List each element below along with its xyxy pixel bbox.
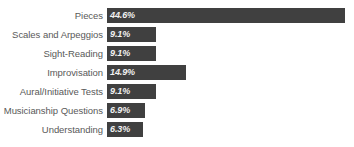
category-label: Musicianship Questions [0, 103, 103, 118]
category-label: Understanding [0, 122, 103, 137]
bar-value-label: 14.9% [107, 65, 135, 80]
bar[interactable]: 9.1% [107, 46, 156, 61]
category-label: Sight-Reading [0, 46, 103, 61]
bar-value-label: 44.6% [107, 8, 135, 23]
bar-value-label: 6.9% [107, 103, 130, 118]
chart-row: Understanding 6.3% [0, 122, 354, 137]
bar-track: 9.1% [107, 46, 354, 61]
bar-track: 44.6% [107, 8, 354, 23]
chart-plot-area: Pieces 44.6% Scales and Arpeggios 9.1% S… [0, 0, 354, 147]
bar-track: 9.1% [107, 27, 354, 42]
chart-row: Improvisation 14.9% [0, 65, 354, 80]
bar[interactable]: 9.1% [107, 27, 156, 42]
bar-track: 9.1% [107, 84, 354, 99]
bar[interactable]: 6.9% [107, 103, 145, 118]
chart-row: Pieces 44.6% [0, 8, 354, 23]
bar-value-label: 6.3% [107, 122, 130, 137]
bar[interactable]: 14.9% [107, 65, 186, 80]
category-label: Scales and Arpeggios [0, 27, 103, 42]
chart-row: Scales and Arpeggios 9.1% [0, 27, 354, 42]
bar[interactable]: 6.3% [107, 122, 143, 137]
bar-track: 14.9% [107, 65, 354, 80]
bar-value-label: 9.1% [107, 27, 130, 42]
category-label: Aural/Initiative Tests [0, 84, 103, 99]
bar-chart: Pieces 44.6% Scales and Arpeggios 9.1% S… [0, 0, 354, 147]
bar-value-label: 9.1% [107, 84, 130, 99]
category-label: Improvisation [0, 65, 103, 80]
bar-value-label: 9.1% [107, 46, 130, 61]
chart-row: Sight-Reading 9.1% [0, 46, 354, 61]
chart-row: Musicianship Questions 6.9% [0, 103, 354, 118]
category-label: Pieces [0, 8, 103, 23]
bar-track: 6.9% [107, 103, 354, 118]
bar[interactable]: 44.6% [107, 8, 345, 23]
chart-row: Aural/Initiative Tests 9.1% [0, 84, 354, 99]
bar-track: 6.3% [107, 122, 354, 137]
bar[interactable]: 9.1% [107, 84, 156, 99]
